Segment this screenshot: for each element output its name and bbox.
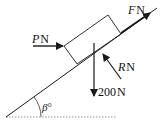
diagram-canvas <box>0 0 161 132</box>
label-r: R N <box>118 61 135 73</box>
label-f: F N <box>128 4 145 16</box>
label-weight: 200 N <box>98 86 126 98</box>
label-angle: β° <box>42 102 52 113</box>
block <box>64 15 121 64</box>
angle-arc <box>34 97 41 117</box>
force-diagram: P N F N R N 200 N β° <box>0 0 161 132</box>
label-p: P N <box>32 33 49 45</box>
